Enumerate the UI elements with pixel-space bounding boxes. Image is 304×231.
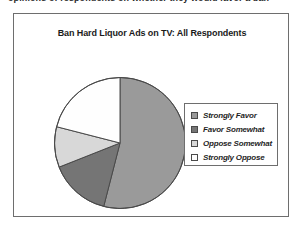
legend-swatch-icon: [191, 126, 198, 133]
pie-chart-svg: [53, 76, 187, 210]
figure-frame: Ban Hard Liquor Ads on TV: All Responden…: [13, 13, 289, 217]
legend-item-strongly-oppose[interactable]: Strongly Oppose: [191, 151, 277, 164]
legend-swatch-icon: [191, 140, 198, 147]
legend-label: Strongly Favor: [203, 111, 257, 120]
legend-label: Oppose Somewhat: [203, 139, 272, 148]
legend-label: Favor Somewhat: [203, 125, 264, 134]
legend: Strongly Favor Favor Somewhat Oppose Som…: [184, 103, 278, 166]
legend-item-oppose-somewhat[interactable]: Oppose Somewhat: [191, 137, 277, 150]
clipped-page-text-line: opinions of respondents on whether they …: [8, 0, 298, 3]
legend-item-favor-somewhat[interactable]: Favor Somewhat: [191, 123, 277, 136]
legend-swatch-icon: [191, 154, 198, 161]
pie-chart: [53, 76, 187, 210]
legend-swatch-icon: [191, 112, 198, 119]
legend-item-strongly-favor[interactable]: Strongly Favor: [191, 109, 277, 122]
legend-label: Strongly Oppose: [203, 153, 264, 162]
chart-title: Ban Hard Liquor Ads on TV: All Responden…: [44, 27, 260, 39]
clipped-page-text: opinions of respondents on whether they …: [0, 0, 304, 9]
